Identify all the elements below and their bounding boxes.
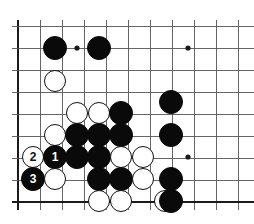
go-stone-black[interactable] — [87, 145, 111, 169]
go-stone-black[interactable] — [109, 123, 133, 147]
go-board-figure: 213 — [0, 0, 254, 224]
go-stone-white[interactable] — [132, 146, 154, 168]
stone-move-number: 3 — [30, 173, 37, 185]
go-stone-white[interactable] — [66, 102, 88, 124]
go-stone-black[interactable] — [159, 90, 183, 114]
go-stone-black[interactable] — [65, 123, 89, 147]
go-stone-white[interactable] — [44, 168, 66, 190]
stone-move-number: 2 — [30, 151, 37, 163]
star-point-0 — [74, 45, 79, 50]
go-stone-black[interactable] — [43, 36, 67, 60]
go-stone-black[interactable] — [87, 167, 111, 191]
go-stone-black[interactable] — [87, 36, 111, 60]
go-stone-black[interactable] — [65, 145, 89, 169]
stone-move-number: 1 — [52, 151, 59, 163]
go-stone-black[interactable] — [159, 189, 183, 213]
go-stone-white[interactable] — [88, 190, 110, 212]
go-stone-black[interactable] — [109, 101, 133, 125]
go-stone-black-move-1[interactable]: 1 — [43, 145, 67, 169]
go-stone-black[interactable] — [159, 167, 183, 191]
go-stone-white-move-2[interactable]: 2 — [22, 146, 44, 168]
go-stone-white[interactable] — [110, 190, 132, 212]
go-stone-white[interactable] — [44, 70, 66, 92]
go-stone-white[interactable] — [44, 124, 66, 146]
go-stone-black-move-3[interactable]: 3 — [21, 167, 45, 191]
go-stone-white[interactable] — [110, 146, 132, 168]
go-stone-white[interactable] — [88, 102, 110, 124]
go-stone-black[interactable] — [159, 123, 183, 147]
go-stone-black[interactable] — [87, 123, 111, 147]
star-point-2 — [185, 154, 190, 159]
star-point-1 — [185, 45, 190, 50]
go-stone-black[interactable] — [109, 167, 133, 191]
go-stone-white[interactable] — [132, 168, 154, 190]
